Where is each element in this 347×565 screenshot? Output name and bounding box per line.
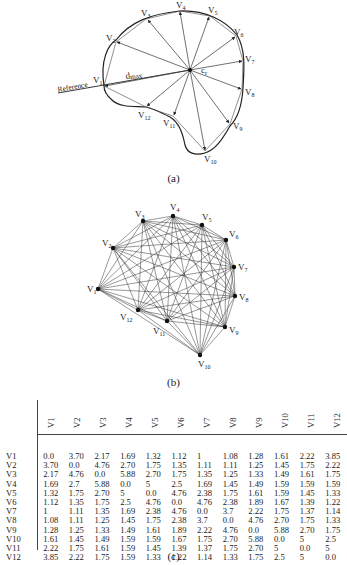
- svg-text:V4: V4: [176, 0, 186, 11]
- vertex-label: V9: [229, 325, 239, 336]
- figure-a: Reference dmax cr V1 V2 V3 V4 V5 V6 V7 V…: [0, 0, 347, 190]
- column-header: V2: [72, 417, 82, 428]
- svg-text:V2: V2: [106, 33, 116, 44]
- caption-a: (a): [0, 172, 347, 184]
- vertex-label: V11: [153, 326, 165, 337]
- svg-text:V12: V12: [138, 110, 151, 121]
- column-header: V4: [124, 417, 134, 428]
- caption-c: (c): [0, 550, 347, 562]
- column-header: V1: [46, 417, 56, 428]
- column-header: V6: [176, 417, 186, 428]
- vertex-label: V1: [87, 284, 97, 295]
- column-header: V7: [202, 417, 212, 428]
- vertex-label: V3: [135, 209, 145, 220]
- svg-text:V6: V6: [234, 27, 244, 38]
- vertex-label: V5: [202, 212, 212, 223]
- svg-text:V1: V1: [93, 75, 103, 86]
- column-header: V11: [306, 414, 316, 428]
- shape-centroid-diagram: Reference dmax cr V1 V2 V3 V4 V5 V6 V7 V…: [0, 0, 347, 190]
- svg-text:Reference: Reference: [57, 80, 89, 94]
- svg-text:V9: V9: [233, 121, 243, 132]
- column-header: V5: [150, 417, 160, 428]
- svg-text:V5: V5: [208, 5, 218, 16]
- vertex-label: V12: [120, 312, 133, 323]
- svg-text:V7: V7: [245, 54, 255, 65]
- vertex-label: V8: [239, 292, 249, 303]
- column-header: V10: [280, 413, 290, 428]
- table-horizontal-rule: [37, 434, 347, 435]
- svg-text:V3: V3: [141, 8, 151, 19]
- figure-b: V1V2V3V4V5V6V7V8V9V10V11V12: [0, 200, 347, 375]
- complete-graph-diagram: V1V2V3V4V5V6V7V8V9V10V11V12: [0, 200, 347, 375]
- column-header: V8: [228, 417, 238, 428]
- vertex-label: V10: [198, 359, 211, 370]
- caption-b: (b): [0, 376, 347, 388]
- vertex-label: V2: [102, 238, 112, 249]
- column-header: V9: [254, 417, 264, 428]
- vertex-label: V6: [229, 229, 239, 240]
- svg-text:cr: cr: [201, 65, 208, 76]
- svg-text:V10: V10: [204, 154, 217, 165]
- column-header: V3: [98, 417, 108, 428]
- svg-text:V8: V8: [245, 87, 255, 98]
- vertex-label: V7: [238, 262, 248, 273]
- svg-text:dmax: dmax: [125, 69, 143, 82]
- vertex-label: V4: [170, 202, 180, 213]
- column-header: V12: [332, 413, 342, 428]
